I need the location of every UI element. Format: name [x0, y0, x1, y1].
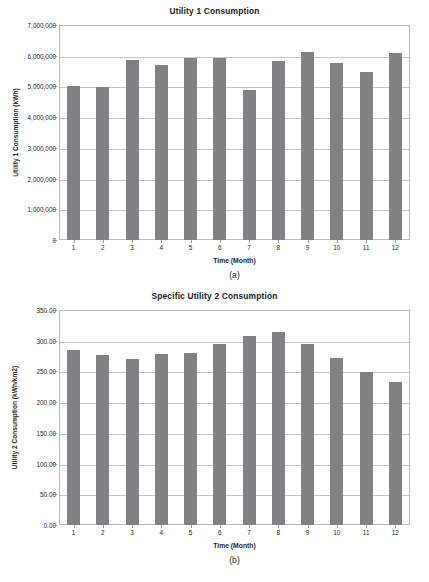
x-tick-mark	[191, 240, 192, 243]
y-tick-label: 2,000,000	[2, 175, 56, 182]
clipped-caption-strip	[0, 576, 429, 582]
gridline	[60, 180, 409, 181]
x-tick-mark	[103, 525, 104, 528]
x-tick-mark	[366, 525, 367, 528]
x-tick-mark	[337, 525, 338, 528]
x-axis-tick-labels-a: 123456789101112	[59, 240, 410, 256]
y-tick-label: 6,000,000	[2, 52, 56, 59]
x-tick-label: 9	[297, 244, 319, 251]
gridline	[60, 210, 409, 211]
x-tick-label: 2	[92, 529, 114, 536]
x-tick-mark	[395, 240, 396, 243]
gridline	[60, 87, 409, 88]
y-axis-tick-labels-a: 01,000,0002,000,0003,000,0004,000,0005,0…	[0, 25, 56, 240]
plot-wrapper-a: Utility 1 Consumption (kWh) 01,000,0002,…	[0, 0, 429, 290]
x-axis-tick-labels-b: 123456789101112	[59, 525, 410, 541]
x-tick-label: 12	[384, 529, 406, 536]
plot-wrapper-b: Utility 2 Consumption (kWh/km2) 0.0050.0…	[0, 285, 429, 575]
x-tick-mark	[278, 240, 279, 243]
x-tick-label: 5	[180, 529, 202, 536]
x-axis-title-a: Time (Month)	[59, 257, 410, 264]
plot-area-a	[59, 25, 410, 240]
y-tick-mark	[53, 56, 57, 57]
y-tick-label: 0.00	[2, 522, 56, 529]
x-tick-mark	[395, 525, 396, 528]
x-tick-label: 10	[326, 244, 348, 251]
y-tick-label: 7,000,000	[2, 22, 56, 29]
gridline	[60, 403, 409, 404]
gridline	[60, 149, 409, 150]
x-tick-mark	[220, 525, 221, 528]
y-tick-mark	[53, 464, 57, 465]
x-tick-label: 5	[180, 244, 202, 251]
gridline	[60, 465, 409, 466]
x-tick-label: 9	[297, 529, 319, 536]
x-tick-mark	[74, 525, 75, 528]
y-tick-label: 1,000,000	[2, 206, 56, 213]
x-tick-mark	[308, 525, 309, 528]
y-tick-label: 0	[2, 237, 56, 244]
x-tick-label: 3	[121, 529, 143, 536]
y-tick-mark	[53, 209, 57, 210]
x-tick-label: 8	[267, 529, 289, 536]
x-tick-label: 8	[267, 244, 289, 251]
y-tick-mark	[53, 494, 57, 495]
x-tick-label: 7	[238, 529, 260, 536]
x-axis-title-b: Time (Month)	[59, 542, 410, 549]
x-tick-mark	[161, 240, 162, 243]
x-tick-label: 10	[326, 529, 348, 536]
x-tick-label: 2	[92, 244, 114, 251]
x-tick-label: 6	[209, 244, 231, 251]
y-tick-label: 4,000,000	[2, 114, 56, 121]
x-tick-mark	[308, 240, 309, 243]
y-tick-mark	[53, 525, 57, 526]
figure-panel-a: Utility 1 Consumption Utility 1 Consumpt…	[0, 0, 429, 290]
x-tick-mark	[249, 525, 250, 528]
x-tick-label: 4	[150, 529, 172, 536]
gridline	[60, 372, 409, 373]
x-tick-label: 11	[355, 244, 377, 251]
y-tick-mark	[53, 371, 57, 372]
y-tick-mark	[53, 310, 57, 311]
y-tick-label: 150.00	[2, 429, 56, 436]
x-tick-mark	[103, 240, 104, 243]
x-tick-label: 1	[63, 244, 85, 251]
y-tick-label: 300.00	[2, 337, 56, 344]
y-tick-label: 350.00	[2, 307, 56, 314]
x-tick-mark	[337, 240, 338, 243]
x-tick-mark	[249, 240, 250, 243]
gridline	[60, 434, 409, 435]
x-tick-mark	[74, 240, 75, 243]
y-tick-mark	[53, 25, 57, 26]
y-tick-label: 250.00	[2, 368, 56, 375]
gridline	[60, 495, 409, 496]
x-tick-mark	[132, 240, 133, 243]
y-tick-mark	[53, 86, 57, 87]
x-tick-label: 7	[238, 244, 260, 251]
x-tick-mark	[366, 240, 367, 243]
y-tick-mark	[53, 433, 57, 434]
x-tick-mark	[278, 525, 279, 528]
panel-caption-b: (b)	[59, 555, 410, 565]
y-tick-mark	[53, 240, 57, 241]
y-tick-label: 3,000,000	[2, 144, 56, 151]
x-tick-label: 11	[355, 529, 377, 536]
gridline	[60, 57, 409, 58]
x-tick-label: 1	[63, 529, 85, 536]
x-tick-mark	[132, 525, 133, 528]
gridline	[60, 342, 409, 343]
y-tick-label: 50.00	[2, 491, 56, 498]
plot-area-b	[59, 310, 410, 525]
y-tick-mark	[53, 179, 57, 180]
x-tick-label: 3	[121, 244, 143, 251]
y-tick-mark	[53, 402, 57, 403]
panel-caption-a: (a)	[59, 270, 410, 280]
x-tick-mark	[191, 525, 192, 528]
y-tick-label: 100.00	[2, 460, 56, 467]
x-tick-mark	[161, 525, 162, 528]
y-tick-label: 5,000,000	[2, 83, 56, 90]
x-tick-label: 12	[384, 244, 406, 251]
x-tick-label: 6	[209, 529, 231, 536]
figure-panel-b: Specific Utility 2 Consumption Utility 2…	[0, 285, 429, 575]
y-axis-tick-labels-b: 0.0050.00100.00150.00200.00250.00300.003…	[0, 310, 56, 525]
